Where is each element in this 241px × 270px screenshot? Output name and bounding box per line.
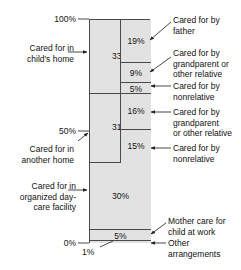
callout-nonrelative-home: Cared for by nonrelative (173, 81, 241, 102)
callout-grandparent-other: Cared for by grandparent or other relati… (173, 107, 241, 139)
subsegment-nonrelative-other: 15% (120, 130, 151, 163)
segment-label-daycare: 30% (90, 192, 151, 201)
subsegment-grandparent-other: 16% (120, 94, 151, 130)
axis-tick-50: 50% (40, 127, 76, 136)
axis-tick-100: 100% (40, 15, 76, 24)
callout-another-home: Cared for in another home (2, 144, 74, 165)
leader-mother-work (151, 223, 166, 234)
subsegment-label-grandparent-home: 9% (121, 69, 151, 78)
segment-other-arrangements (90, 241, 151, 243)
callout-father: Cared for by father (173, 15, 241, 36)
callout-daycare: Cared for in organized day- care facilit… (0, 181, 76, 213)
callout-one-percent: 1% (82, 247, 112, 258)
subsegment-label-grandparent-other: 16% (121, 107, 151, 116)
segment-daycare: 30% (90, 163, 151, 230)
bar-column: 33% 31% 30% 5% 19% 9% 5% 16% 15% (89, 19, 150, 243)
subsegment-label-nonrelative-home: 5% (121, 85, 151, 94)
subsegment-nonrelative-home: 5% (120, 83, 151, 94)
subsegment-label-nonrelative-other: 15% (121, 142, 151, 151)
subsegment-father: 19% (120, 20, 151, 63)
callout-nonrelative-other: Cared for by nonrelative (173, 143, 241, 164)
leader-another-home (78, 133, 88, 141)
stacked-bar-chart: 33% 31% 30% 5% 19% 9% 5% 16% 15% 100% 50… (0, 0, 241, 270)
callout-mother-work: Mother care for child at work (168, 216, 241, 237)
callout-grandparent-home: Cared for by grandparent or other relati… (173, 48, 241, 80)
subsegment-label-father: 19% (121, 37, 151, 46)
segment-mother-work: 5% (90, 230, 151, 241)
callout-child-home: Cared for in child's home (2, 43, 74, 64)
segment-label-mother-work: 5% (90, 232, 151, 241)
axis-tick-0: 0% (40, 239, 76, 248)
leader-father (150, 22, 171, 40)
subsegment-grandparent-home: 9% (120, 63, 151, 83)
leader-grandparent-home (150, 57, 171, 72)
callout-other-arrangements: Other arrangements (168, 238, 241, 259)
